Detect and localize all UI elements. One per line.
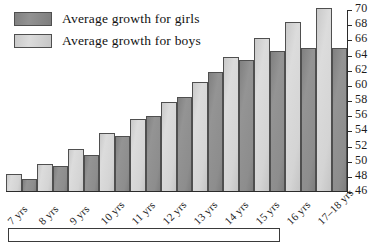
y-tick-label: 62 bbox=[355, 63, 367, 75]
bar-boys bbox=[99, 133, 115, 191]
y-tick-mark bbox=[347, 131, 352, 132]
y-tick-label: 58 bbox=[355, 93, 367, 105]
y-tick-mark bbox=[347, 162, 352, 163]
bar-girls bbox=[301, 48, 317, 191]
bar-girls bbox=[239, 60, 255, 191]
legend-label-boys: Average growth for boys bbox=[62, 33, 201, 49]
bar-boys bbox=[223, 57, 239, 191]
bar-girls bbox=[146, 116, 162, 191]
bar-girls bbox=[208, 72, 224, 191]
bar-boys bbox=[161, 102, 177, 191]
y-tick-label: 64 bbox=[355, 48, 367, 60]
x-axis-tick-label: 7 yrs bbox=[5, 202, 30, 227]
x-axis-tick-label: 16 yrs bbox=[284, 198, 313, 227]
bar-group bbox=[316, 6, 347, 191]
y-tick-mark bbox=[347, 147, 352, 148]
y-tick-label: 54 bbox=[355, 123, 367, 135]
bar-boys bbox=[130, 119, 146, 191]
bar-group bbox=[285, 6, 316, 191]
bar-girls bbox=[22, 179, 38, 191]
bar-boys bbox=[37, 164, 53, 191]
legend-item-girls: Average growth for girls bbox=[14, 9, 201, 29]
bar-group bbox=[223, 6, 254, 191]
y-tick-label: 50 bbox=[355, 154, 367, 166]
chart-legend: Average growth for girls Average growth … bbox=[14, 9, 201, 53]
y-tick-mark bbox=[347, 10, 352, 11]
y-tick-label: 60 bbox=[355, 78, 367, 90]
x-axis-tick-label: 10 yrs bbox=[98, 198, 127, 227]
y-tick-mark bbox=[347, 71, 352, 72]
y-tick-label: 52 bbox=[355, 139, 367, 151]
x-axis-tick-label: 8 yrs bbox=[36, 202, 61, 227]
x-axis-tick-label: 9 yrs bbox=[67, 202, 92, 227]
y-tick-label: 66 bbox=[355, 32, 367, 44]
bar-girls bbox=[115, 136, 131, 191]
y-tick-label: 48 bbox=[355, 169, 367, 181]
bar-girls bbox=[177, 97, 193, 191]
bottom-bracket bbox=[8, 228, 280, 242]
y-tick-mark bbox=[347, 116, 352, 117]
y-tick-mark bbox=[347, 177, 352, 178]
y-tick-mark bbox=[347, 86, 352, 87]
legend-swatch-girls-icon bbox=[14, 12, 52, 26]
bar-girls bbox=[270, 51, 286, 191]
x-axis-tick-label: 15 yrs bbox=[253, 198, 282, 227]
bar-boys bbox=[192, 82, 208, 191]
x-axis-tick-label: 11 yrs bbox=[129, 199, 157, 227]
x-axis-baseline bbox=[6, 191, 348, 192]
chart-figure: 70686664626058565452504846 7 yrs8 yrs9 y… bbox=[0, 0, 386, 242]
y-tick-label: 46 bbox=[355, 184, 367, 196]
bar-boys bbox=[6, 174, 22, 191]
y-tick-mark bbox=[347, 25, 352, 26]
bar-boys bbox=[254, 38, 270, 191]
bar-girls bbox=[84, 155, 100, 191]
x-axis-tick-label: 12 yrs bbox=[160, 198, 189, 227]
bar-girls bbox=[332, 48, 348, 191]
legend-item-boys: Average growth for boys bbox=[14, 31, 201, 51]
x-axis-tick-label: 17–18 yrs bbox=[315, 186, 356, 227]
y-tick-mark bbox=[347, 56, 352, 57]
bar-boys bbox=[316, 8, 332, 191]
x-axis-tick-label: 13 yrs bbox=[191, 198, 220, 227]
y-tick-mark bbox=[347, 101, 352, 102]
bar-boys bbox=[285, 22, 301, 191]
legend-swatch-boys-icon bbox=[14, 34, 52, 48]
y-tick-label: 68 bbox=[355, 17, 367, 29]
bar-group bbox=[254, 6, 285, 191]
x-axis-tick-label: 14 yrs bbox=[222, 198, 251, 227]
legend-label-girls: Average growth for girls bbox=[62, 11, 200, 27]
y-tick-label: 56 bbox=[355, 108, 367, 120]
y-tick-mark bbox=[347, 40, 352, 41]
y-axis: 70686664626058565452504846 bbox=[347, 0, 386, 198]
bar-girls bbox=[53, 166, 69, 191]
y-tick-label: 70 bbox=[355, 2, 367, 14]
bar-boys bbox=[68, 149, 84, 191]
